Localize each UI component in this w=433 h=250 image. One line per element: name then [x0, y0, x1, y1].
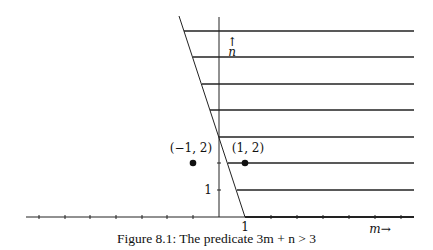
figure-caption: Figure 8.1: The predicate 3m + n > 3	[0, 231, 433, 247]
n-axis-label: n	[228, 45, 236, 59]
predicate-figure: (−1, 2) (1, 2) 1 1 ↑ n m→	[0, 0, 433, 250]
point-left-label: (−1, 2)	[170, 141, 212, 155]
y-tick-label-1: 1	[204, 183, 212, 197]
point-right	[242, 160, 249, 167]
point-right-label: (1, 2)	[232, 141, 264, 155]
point-left	[190, 160, 197, 167]
